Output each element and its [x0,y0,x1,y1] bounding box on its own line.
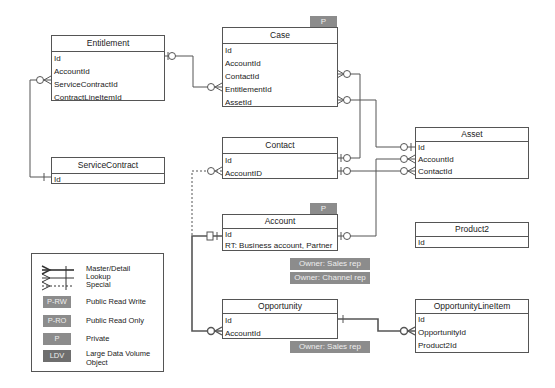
legend-badge-pro: P-RO [43,315,71,327]
field-account-id: AccountId [223,327,337,340]
entity-entitlement[interactable]: Entitlement Id AccountId ServiceContract… [51,35,165,101]
field-contract-line-item-id: ContractLineItemId [52,91,164,104]
field-record-types: RT: Business account, Partner [223,240,337,252]
field-account-id: AccountId [52,65,164,78]
field-id: Id [416,142,528,154]
legend: Master/Detail Lookup Special P-RW Public… [31,253,164,372]
field-id: Id [416,237,528,248]
field-contact-id: ContactId [416,166,528,178]
entity-title: Contact [223,138,337,154]
entity-contact[interactable]: Contact Id AccountID [222,137,338,179]
field-id: Id [223,314,337,327]
entity-asset[interactable]: Asset Id AccountId ContactId [415,127,529,179]
entity-title: OpportunityLineItem [416,300,528,314]
legend-badge-prw: P-RW [43,296,71,308]
field-account-id: AccountId [416,154,528,166]
entity-title: ServiceContract [52,158,164,174]
field-id: Id [52,174,164,185]
relationship-legend-icons [40,264,80,292]
field-service-contract-id: ServiceContractId [52,78,164,91]
legend-private: Private [86,335,109,344]
entity-title: Asset [416,128,528,142]
entity-opportunity[interactable]: Opportunity Id AccountId [222,299,338,339]
field-asset-id: AssetId [223,96,337,109]
account-access-badge: P [310,203,337,214]
legend-special: Special [86,281,111,290]
legend-public-read-only: Public Read Only [86,317,144,326]
field-entitlement-id: EntitlementId [223,83,337,96]
case-access-badge: P [310,16,337,27]
field-id: Id [52,52,164,65]
entity-title: Entitlement [52,36,164,52]
field-contact-id: ContactId [223,70,337,83]
entity-opportunity-line-item[interactable]: OpportunityLineItem Id OpportunityId Pro… [415,299,529,353]
entity-title: Account [223,215,337,229]
opportunity-owner-badge: Owner: Sales rep [290,341,370,353]
entity-title: Case [223,28,337,44]
legend-large-data-volume-object: Object [86,359,108,368]
legend-public-read-write: Public Read Write [86,298,146,307]
account-owner-badge: Owner: Channel rep [290,272,370,284]
entity-service-contract[interactable]: ServiceContract Id [51,157,165,184]
legend-badge-private: P [43,333,71,345]
field-id: Id [416,314,528,326]
field-account-id: AccountID [223,167,337,180]
entity-product2[interactable]: Product2 Id [415,222,529,248]
field-id: Id [223,44,337,57]
account-owner-badge: Owner: Sales rep [290,258,370,270]
field-id: Id [223,229,337,240]
entity-case[interactable]: Case Id AccountId ContactId EntitlementI… [222,27,338,107]
field-id: Id [223,154,337,167]
field-product2-id: Product2Id [416,339,528,352]
entity-title: Product2 [416,223,528,237]
entity-title: Opportunity [223,300,337,314]
field-account-id: AccountId [223,57,337,70]
legend-badge-ldv: LDV [43,350,71,362]
entity-account[interactable]: Account Id RT: Business account, Partner [222,214,338,251]
field-opportunity-id: OpportunityId [416,326,528,339]
